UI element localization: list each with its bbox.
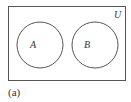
set-b-label: B [84,39,90,50]
set-b-circle [72,22,118,68]
figure-caption: (a) [8,86,20,98]
set-a-label: A [29,39,37,50]
set-a-circle [17,22,63,68]
universe-label: U [114,9,122,20]
universe-rectangle [9,7,126,81]
